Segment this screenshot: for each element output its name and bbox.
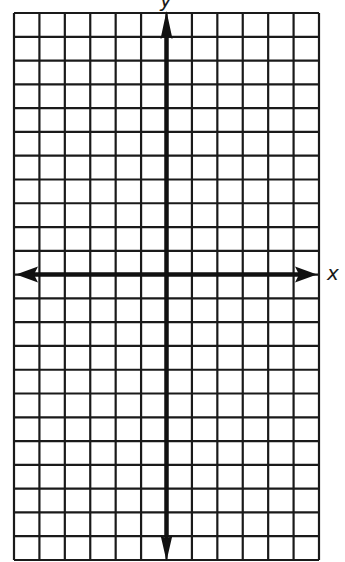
- axes: [16, 11, 317, 561]
- x-axis-label: x: [327, 261, 339, 285]
- coordinate-plane: [0, 0, 345, 562]
- y-axis-label: y: [160, 0, 172, 12]
